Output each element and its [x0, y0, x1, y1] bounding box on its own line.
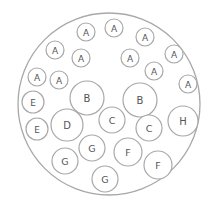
node-a: A: [46, 41, 64, 59]
node-label: G: [101, 174, 108, 185]
node-a: A: [136, 28, 154, 46]
node-a: A: [105, 19, 123, 37]
node-d: D: [51, 109, 83, 141]
circle-packing-diagram: AAAAAAAAAAABBEEDCCHGGGFF: [0, 0, 215, 205]
node-label: A: [78, 54, 85, 64]
node-label: D: [63, 120, 71, 131]
node-g: G: [79, 135, 105, 161]
node-label: E: [34, 125, 40, 135]
node-label: G: [88, 143, 95, 154]
node-f: F: [144, 151, 172, 179]
node-label: A: [142, 33, 149, 43]
node-label: B: [137, 95, 144, 106]
node-a: A: [165, 45, 183, 63]
node-label: A: [52, 46, 59, 56]
node-label: F: [155, 160, 160, 171]
node-label: G: [61, 156, 68, 167]
node-label: A: [171, 50, 178, 60]
node-a: A: [77, 23, 95, 41]
node-a: A: [121, 49, 139, 67]
node-a: A: [28, 68, 46, 86]
node-label: A: [83, 28, 90, 38]
node-a: A: [179, 75, 197, 93]
node-c: C: [99, 107, 125, 133]
node-label: A: [34, 73, 41, 83]
node-f: F: [114, 138, 142, 166]
node-g: G: [52, 148, 78, 174]
node-label: C: [146, 123, 153, 134]
node-label: C: [109, 115, 116, 126]
node-a: A: [145, 62, 163, 80]
node-group: AAAAAAAAAAABBEEDCCHGGGFF: [22, 19, 198, 192]
node-label: A: [151, 67, 158, 77]
node-h: H: [168, 106, 198, 136]
node-b: B: [123, 83, 157, 117]
node-g: G: [92, 166, 118, 192]
node-label: A: [127, 54, 134, 64]
node-label: E: [30, 98, 36, 108]
node-label: A: [111, 24, 118, 34]
node-b: B: [70, 81, 104, 115]
node-a: A: [50, 71, 68, 89]
node-a: A: [72, 49, 90, 67]
node-label: H: [179, 116, 187, 127]
node-e: E: [26, 118, 48, 140]
node-label: B: [84, 93, 91, 104]
node-label: A: [56, 76, 63, 86]
node-label: A: [185, 80, 192, 90]
node-c: C: [136, 115, 162, 141]
node-label: F: [125, 147, 130, 158]
node-e: E: [22, 91, 44, 113]
